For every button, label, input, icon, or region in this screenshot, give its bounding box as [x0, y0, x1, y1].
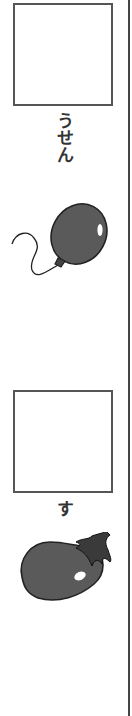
column-divider-line — [128, 0, 130, 716]
eggplant-icon — [14, 532, 118, 604]
hint-text-2: す — [52, 500, 74, 517]
answer-box-1[interactable] — [13, 3, 113, 106]
hint-text-1: うせん — [52, 112, 74, 163]
answer-box-2[interactable] — [13, 390, 113, 493]
balloon-icon — [6, 192, 116, 284]
